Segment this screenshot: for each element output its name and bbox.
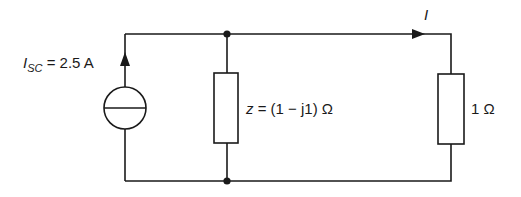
current-symbol: I bbox=[424, 6, 428, 23]
load-resistor-icon bbox=[438, 74, 464, 144]
top-wire bbox=[125, 34, 451, 74]
source-label: ISC = 2.5 A bbox=[23, 55, 94, 70]
impedance-z-resistor-icon bbox=[214, 73, 238, 143]
load-label: 1 Ω bbox=[471, 101, 495, 116]
circuit-diagram bbox=[0, 0, 521, 197]
source-current-arrow-icon bbox=[120, 52, 130, 66]
impedance-expression: = (1 − j1) Ω bbox=[258, 100, 333, 117]
source-value: 2.5 A bbox=[60, 54, 94, 71]
impedance-label: z = (1 − j1) Ω bbox=[246, 101, 333, 116]
bottom-wire bbox=[125, 144, 451, 181]
bottom-node-dot bbox=[223, 177, 230, 184]
load-current-arrow-icon bbox=[412, 29, 425, 39]
impedance-symbol: z bbox=[246, 100, 254, 117]
top-node-dot bbox=[223, 30, 230, 37]
load-value: 1 Ω bbox=[471, 100, 495, 117]
source-equals: = bbox=[47, 54, 56, 71]
source-subscript: SC bbox=[27, 62, 42, 74]
current-label: I bbox=[424, 7, 428, 22]
